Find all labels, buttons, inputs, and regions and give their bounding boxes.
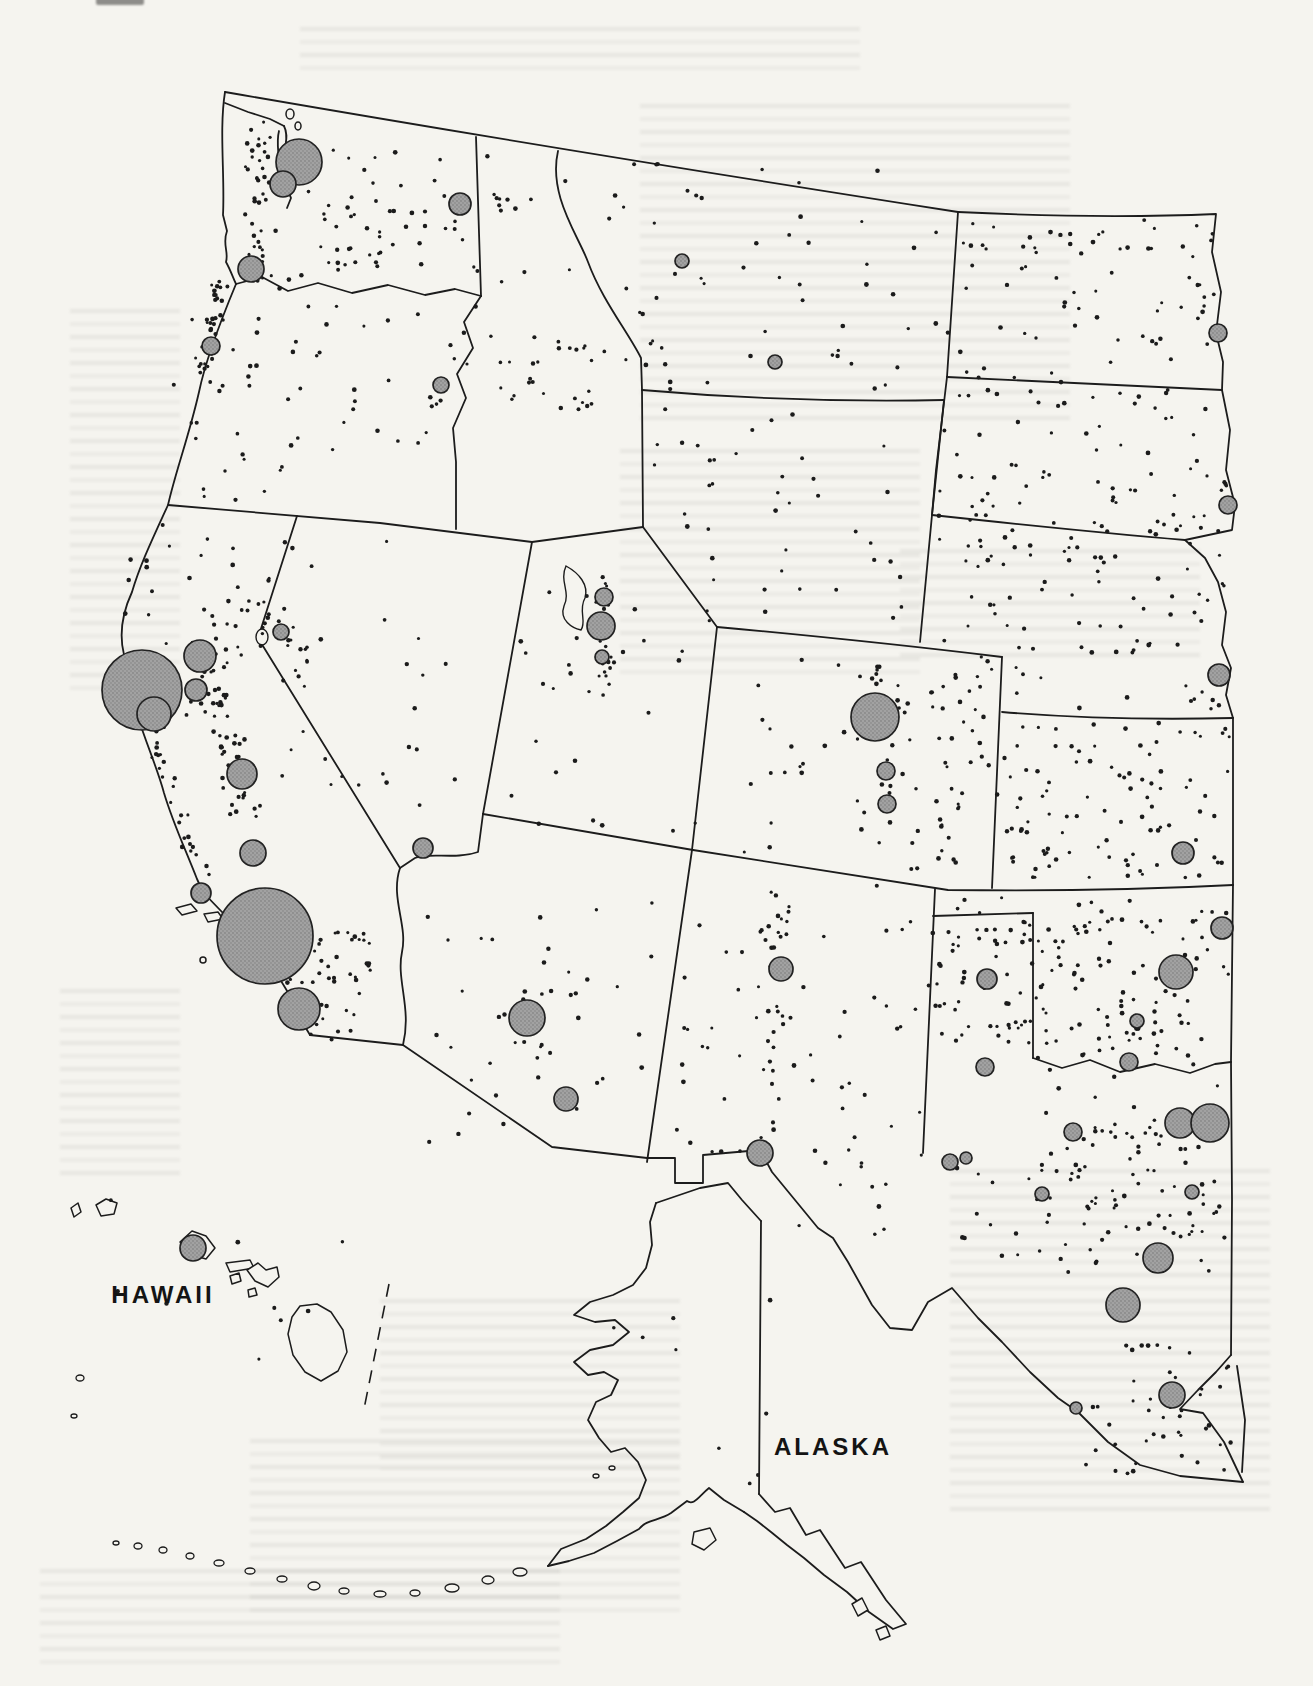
population-dot — [1057, 946, 1061, 950]
population-dot — [760, 168, 763, 171]
population-dot — [908, 738, 911, 741]
population-dot — [1091, 396, 1094, 399]
population-dot — [1159, 826, 1162, 829]
population-dot — [494, 1093, 498, 1097]
population-dot — [974, 513, 978, 517]
inset-divider-dashed-line — [364, 1284, 389, 1409]
population-dot — [1096, 569, 1100, 573]
population-dot — [264, 198, 268, 202]
population-dot — [996, 1034, 1000, 1038]
population-dot — [1154, 342, 1158, 346]
population-dot — [250, 148, 255, 153]
population-dot — [1197, 593, 1200, 596]
population-dot — [209, 327, 213, 331]
population-dot — [221, 786, 225, 790]
population-dot — [900, 605, 904, 609]
population-dot — [1077, 1168, 1081, 1172]
population-dot — [780, 917, 783, 920]
population-dot — [1093, 1129, 1097, 1133]
population-dot — [1222, 1235, 1226, 1239]
population-dot — [262, 121, 265, 124]
population-dot — [790, 412, 795, 417]
population-dot — [858, 674, 862, 678]
population-dot — [1020, 1023, 1023, 1026]
population-dot — [1035, 996, 1038, 999]
population-dot — [953, 1008, 957, 1012]
population-dot — [416, 441, 420, 445]
population-dot — [1041, 950, 1044, 953]
population-dot — [708, 619, 711, 622]
population-dot — [272, 1306, 276, 1310]
population-dot — [1155, 1343, 1159, 1347]
population-dot — [859, 1165, 863, 1169]
city-circle — [851, 693, 899, 741]
population-dot — [172, 785, 175, 788]
border-nv-az-colorado-river — [400, 814, 483, 868]
city-circle — [1185, 1185, 1199, 1199]
population-dot — [835, 354, 839, 358]
population-dot — [1136, 1226, 1141, 1231]
population-dot — [453, 227, 457, 231]
population-dot — [362, 932, 366, 936]
aleutian-island — [374, 1591, 386, 1597]
population-dot — [1188, 1351, 1192, 1355]
population-dot — [766, 1039, 770, 1043]
population-dot — [1016, 420, 1020, 424]
population-dot — [234, 809, 239, 814]
population-dot — [1138, 743, 1143, 748]
population-dot — [1218, 1385, 1222, 1389]
population-dot — [1000, 896, 1003, 899]
population-dot — [1131, 852, 1135, 856]
population-dot — [598, 675, 601, 678]
population-dot — [990, 554, 993, 557]
population-dot — [500, 280, 504, 284]
population-dot — [235, 1240, 240, 1245]
population-dot — [1079, 251, 1083, 255]
scanned-page: HAWAII ALASKA — [0, 0, 1313, 1686]
population-dot — [1090, 1200, 1093, 1203]
population-dot — [1107, 1423, 1111, 1427]
population-dot — [849, 362, 853, 366]
population-dot — [1169, 357, 1173, 361]
population-dot — [1132, 1105, 1136, 1109]
population-dot — [169, 801, 172, 804]
population-dot — [756, 1473, 760, 1477]
population-dot — [1159, 787, 1163, 791]
population-dot — [1100, 1129, 1104, 1133]
population-dot — [822, 935, 826, 939]
population-dot — [173, 776, 177, 780]
population-dot — [210, 614, 214, 618]
population-dot — [891, 292, 896, 297]
population-dot — [813, 1148, 818, 1153]
city-circle — [217, 888, 313, 984]
population-dot — [1056, 404, 1060, 408]
population-dot — [1140, 777, 1144, 781]
population-dot — [1166, 388, 1170, 392]
population-dot — [567, 663, 571, 667]
population-dot — [680, 650, 683, 653]
population-dot — [208, 380, 212, 384]
population-dot — [967, 625, 970, 628]
population-dot — [798, 214, 803, 219]
city-circle — [202, 337, 220, 355]
population-dot — [763, 330, 767, 334]
population-dot — [211, 701, 216, 706]
population-dot — [1036, 1056, 1040, 1060]
population-dot — [1132, 1379, 1135, 1382]
population-dot — [1076, 963, 1080, 967]
population-dot — [1061, 940, 1065, 944]
population-dot — [1101, 230, 1104, 233]
population-dot — [1026, 820, 1029, 823]
city-circle — [1191, 1104, 1229, 1142]
population-dot — [775, 1005, 778, 1008]
population-dot — [1155, 740, 1159, 744]
population-dot — [1191, 255, 1194, 258]
population-dot — [1155, 1001, 1158, 1004]
coast-alaska-canada-border — [759, 1221, 761, 1494]
population-dot — [798, 587, 802, 591]
population-dot — [1056, 1086, 1061, 1091]
population-dot — [776, 491, 780, 495]
population-dot — [257, 200, 262, 205]
population-dot — [903, 711, 907, 715]
population-dot — [1040, 1163, 1044, 1167]
